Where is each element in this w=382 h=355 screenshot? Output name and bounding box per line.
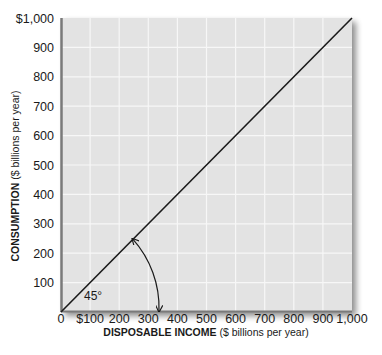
y-tick-label: 100 [33, 276, 54, 290]
y-tick-label: 700 [33, 100, 54, 114]
x-tick-label: 500 [196, 312, 217, 326]
x-tick-label: 0 [58, 312, 65, 326]
plot-area: 45° [61, 18, 352, 312]
y-tick-label: 900 [33, 41, 54, 55]
x-tick-label: 900 [312, 312, 333, 326]
y-tick-label: 300 [33, 217, 54, 231]
angle-annotation: 45° [84, 289, 102, 303]
y-axis-title-rest: ($ billions per year) [9, 91, 21, 183]
x-tick-label: 600 [225, 312, 246, 326]
x-tick-label: 200 [109, 312, 130, 326]
x-tick-label: 300 [138, 312, 159, 326]
x-axis-title: DISPOSABLE INCOME ($ billions per year) [103, 326, 308, 338]
x-tick-label: $100 [76, 312, 104, 326]
x-tick-label: 1,000 [336, 312, 367, 326]
y-tick-label: 500 [33, 159, 54, 173]
x-tick-label: 400 [167, 312, 188, 326]
x-axis-title-bold: DISPOSABLE INCOME [103, 326, 216, 338]
y-axis-tick-labels: 100200300400500600700800900$1,000 [16, 12, 54, 291]
x-axis-tick-labels: 0$1002003004005006007008009001,000 [58, 312, 368, 326]
y-tick-label: 400 [33, 188, 54, 202]
y-tick-label: $1,000 [16, 12, 54, 26]
x-tick-label: 800 [283, 312, 304, 326]
y-tick-label: 600 [33, 129, 54, 143]
y-tick-label: 800 [33, 70, 54, 84]
y-tick-label: 200 [33, 247, 54, 261]
x-tick-label: 700 [254, 312, 275, 326]
y-axis-title-bold: CONSUMPTION [9, 183, 21, 262]
consumption-chart: 45° 0$1002003004005006007008009001,000 1… [0, 0, 382, 355]
x-axis-title-rest: ($ billions per year) [216, 326, 308, 338]
y-axis-title: CONSUMPTION ($ billions per year) [9, 91, 21, 262]
